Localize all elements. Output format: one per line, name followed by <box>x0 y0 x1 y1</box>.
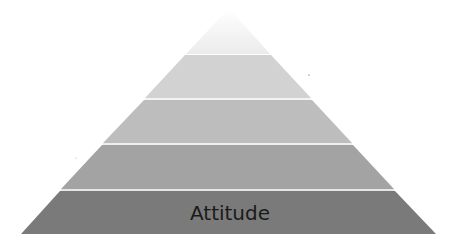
pyramid-tier-3 <box>103 100 352 143</box>
pyramid-graphic: Attitude <box>0 0 459 250</box>
pyramid-tier-2 <box>145 55 311 98</box>
scan-dot <box>75 157 76 158</box>
pyramid-diagram: Attitude <box>0 0 459 250</box>
tier-label-attitude: Attitude <box>190 201 270 225</box>
pyramid-tier-1 <box>186 8 270 54</box>
pyramid-tier-4 <box>61 145 394 189</box>
scan-dot <box>308 74 310 76</box>
